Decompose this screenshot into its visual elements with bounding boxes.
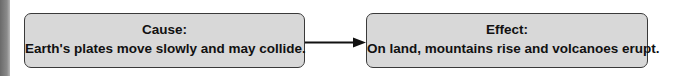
arrow-right-icon [305,41,366,44]
effect-box: Effect: On land, mountains rise and volc… [366,13,648,68]
cause-text: Earth's plates move slowly and may colli… [25,39,304,58]
cause-box: Cause: Earth's plates move slowly and ma… [24,13,305,68]
effect-title: Effect: [367,20,647,39]
effect-text: On land, mountains rise and volcanoes er… [367,39,647,58]
cause-title: Cause: [25,20,304,39]
page-edge-strip [0,0,10,76]
